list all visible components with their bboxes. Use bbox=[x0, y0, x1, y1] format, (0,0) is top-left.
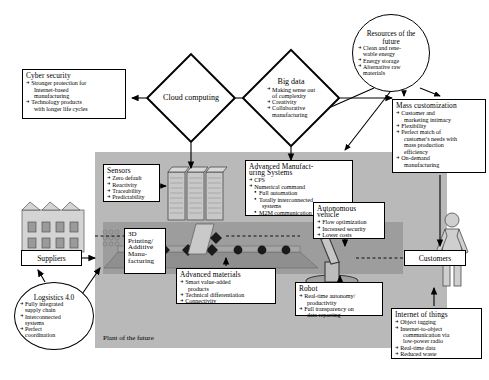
list-item: manufacturing bbox=[396, 162, 482, 168]
node-robot[interactable]: Robot Real-time autonomy/ productivity F… bbox=[295, 282, 383, 316]
list-item: Lower costs bbox=[317, 232, 381, 238]
list-item: marketing intimacy bbox=[396, 117, 482, 123]
printing-line-5: facturing bbox=[128, 258, 162, 265]
mass-customization-list: Customer and marketing intimacy Flexibil… bbox=[396, 110, 482, 168]
logistics-title: Logsistics 4.0 bbox=[34, 294, 75, 302]
iot-title: Internet of things bbox=[395, 311, 478, 319]
list-item: Internet-based bbox=[26, 87, 122, 93]
advanced-materials-list: Smart value-added products Technical dif… bbox=[180, 279, 272, 305]
node-cloud-computing[interactable]: Cloud computing bbox=[146, 53, 237, 144]
list-item: Traceability bbox=[107, 188, 156, 194]
node-3d-printing-additive-manufacturing[interactable]: 3D Printing/ Additive Manu- facturing bbox=[124, 228, 166, 274]
list-item: Reactivity bbox=[107, 182, 156, 188]
logistics-list: Fully integrated supply chain Interconne… bbox=[20, 301, 88, 338]
plant-label: Plant of the future bbox=[103, 334, 154, 342]
robot-list: Real-time autonomy/ productivity Full tr… bbox=[299, 293, 379, 319]
list-item: Flow optimization bbox=[317, 219, 381, 225]
list-item: Connectivity bbox=[180, 298, 272, 304]
list-item: Flexibility bbox=[396, 123, 482, 129]
list-item: Technical differentiation bbox=[180, 292, 272, 298]
node-logistics-4-0[interactable]: Logsistics 4.0 Fully integrated supply c… bbox=[14, 282, 94, 350]
node-internet-of-things[interactable]: Internet of things Object tagging Intern… bbox=[391, 308, 482, 359]
list-item: productivity bbox=[299, 300, 379, 306]
list-item: with longer life cycles bbox=[26, 106, 122, 112]
suppliers-label: Suppliers bbox=[37, 254, 66, 263]
node-autonomous-vehicle[interactable]: Autonomous vehicle Flow optimization Inc… bbox=[313, 202, 385, 239]
list-item: manufacturing bbox=[267, 112, 315, 118]
list-item: Full automation bbox=[249, 190, 349, 196]
diagram-canvas: Cyber security Stronger protection for I… bbox=[0, 0, 489, 380]
list-item: Internet-to-object bbox=[395, 326, 478, 332]
list-item: Customer and bbox=[396, 110, 482, 116]
sensors-title: Sensors bbox=[107, 167, 156, 175]
resources-list: Clean and rene- wable energy Energy stor… bbox=[358, 45, 424, 76]
list-item: Predictability bbox=[107, 194, 156, 200]
list-item: On-demand bbox=[396, 155, 482, 161]
list-item: customer's needs with bbox=[396, 136, 482, 142]
mass-customization-title: Mass customization bbox=[396, 102, 482, 110]
autonomous-vehicle-list: Flow optimization Increased security Low… bbox=[317, 219, 381, 238]
node-cyber-security[interactable]: Cyber security Stronger protection for I… bbox=[22, 69, 126, 119]
node-customers[interactable]: Customers bbox=[404, 250, 466, 266]
sensors-list: Zero default Reactivity Traceability Pre… bbox=[107, 175, 156, 201]
cyber-security-list: Stronger protection for Internet-based m… bbox=[26, 80, 122, 112]
list-item: Full transparency on bbox=[299, 306, 379, 312]
list-item: Smart value-added bbox=[180, 279, 272, 285]
big-data-list: Making sense out of complexity Creativit… bbox=[267, 87, 315, 118]
iot-list: Object tagging Internet-to-object commun… bbox=[395, 319, 478, 358]
list-item: Perfect match of bbox=[396, 129, 482, 135]
list-item: manufacturing bbox=[26, 93, 122, 99]
list-item: communication via bbox=[395, 332, 478, 338]
cyber-security-title: Cyber security bbox=[26, 72, 122, 80]
list-item: Zero default bbox=[107, 175, 156, 181]
list-item: low-power radio bbox=[395, 338, 478, 344]
list-item: efficiency bbox=[396, 149, 482, 155]
list-item: data reporting bbox=[299, 312, 379, 318]
list-item: Real-time autonomy/ bbox=[299, 293, 379, 299]
list-item: Real-time data bbox=[395, 345, 478, 351]
list-item: Stronger protection for bbox=[26, 80, 122, 86]
list-item: Increased security bbox=[317, 226, 381, 232]
advanced-materials-title: Advanced materials bbox=[180, 271, 272, 279]
node-suppliers[interactable]: Suppliers bbox=[21, 250, 82, 266]
list-item: Numerical command bbox=[249, 184, 349, 190]
node-big-data[interactable]: Big data Making sense out of complexity … bbox=[242, 49, 341, 148]
list-item: Object tagging bbox=[395, 319, 478, 325]
big-data-title: Big data bbox=[278, 78, 305, 86]
node-resources-of-the-future[interactable]: Resources of the future Clean and rene- … bbox=[352, 14, 430, 92]
list-item: products bbox=[180, 286, 272, 292]
resources-title: Resources of the future bbox=[358, 30, 424, 45]
list-item: Technology products bbox=[26, 99, 122, 105]
list-item: mass production bbox=[396, 142, 482, 148]
customers-label: Customers bbox=[419, 254, 452, 263]
node-mass-customization[interactable]: Mass customization Customer and marketin… bbox=[392, 99, 486, 173]
node-sensors[interactable]: Sensors Zero default Reactivity Traceabi… bbox=[103, 164, 160, 202]
list-item: materials bbox=[358, 70, 424, 76]
list-item: coordination bbox=[20, 332, 88, 338]
node-advanced-materials[interactable]: Advanced materials Smart value-added pro… bbox=[176, 268, 276, 304]
robot-title: Robot bbox=[299, 285, 379, 293]
list-item: CPS bbox=[249, 177, 349, 183]
list-item: Reduced waste bbox=[395, 351, 478, 357]
cloud-computing-title: Cloud computing bbox=[163, 94, 219, 102]
